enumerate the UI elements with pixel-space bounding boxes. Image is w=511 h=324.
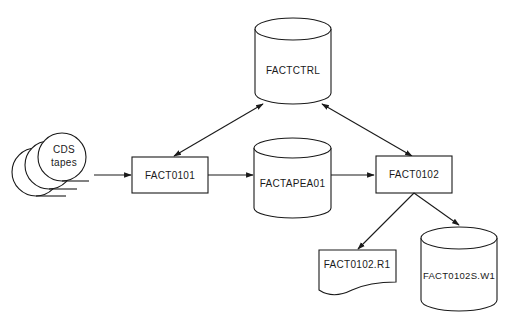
- edge-fact0102-to-r1: [358, 193, 414, 249]
- fact0102s-w1-cylinder-top: [421, 227, 497, 249]
- fact0101-label: FACT0101: [145, 170, 195, 181]
- factctrl-cylinder-top: [255, 18, 331, 40]
- edge-fact0101-factctrl: [174, 104, 263, 156]
- factapea01-label: FACTAPEA01: [260, 178, 326, 189]
- edge-fact0102-factctrl: [322, 104, 412, 156]
- tapes-label-line2: tapes: [51, 157, 77, 168]
- factapea01-node: FACTAPEA01: [254, 138, 331, 218]
- fact0102-r1-node: FACT0102.R1: [319, 250, 396, 295]
- data-flow-diagram: CDS tapes FACT0101 FACTAPEA01 FACTCTRL F…: [0, 0, 511, 324]
- fact0102s-w1-node: FACT0102S.W1: [421, 227, 497, 311]
- edge-fact0102-to-w1: [414, 193, 459, 225]
- tapes-label-line1: CDS: [53, 144, 75, 155]
- factctrl-label: FACTCTRL: [266, 65, 320, 76]
- fact0102-r1-label: FACT0102.R1: [324, 259, 391, 270]
- factctrl-node: FACTCTRL: [255, 18, 331, 104]
- fact0102-node: FACT0102: [376, 156, 452, 193]
- fact0102-label: FACT0102: [389, 169, 439, 180]
- factapea01-cylinder-top: [254, 138, 331, 158]
- fact0101-node: FACT0101: [132, 157, 208, 193]
- cds-tapes-node: CDS tapes: [12, 133, 89, 196]
- fact0102s-w1-label: FACT0102S.W1: [423, 270, 495, 281]
- fact0102-r1-document-shape: [319, 250, 396, 295]
